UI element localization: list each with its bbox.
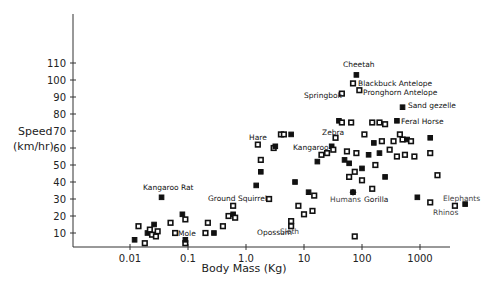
data-point-marker xyxy=(400,105,405,110)
data-point-marker xyxy=(398,132,403,137)
data-point-marker xyxy=(168,221,173,226)
data-point-marker xyxy=(383,122,388,127)
y-tick-label: 10 xyxy=(53,228,66,239)
data-point-marker xyxy=(400,137,405,142)
data-point-marker xyxy=(132,238,137,243)
data-point-marker xyxy=(409,139,414,144)
data-point-marker xyxy=(233,215,238,220)
data-point-marker xyxy=(366,153,371,158)
annotation-label: Gorilla xyxy=(364,195,388,204)
data-point-marker xyxy=(319,153,324,158)
data-point-marker xyxy=(212,231,217,236)
data-point-marker xyxy=(310,209,315,214)
annotation-label: Pronghorn Antelope xyxy=(363,88,438,97)
data-point-marker xyxy=(221,224,226,229)
annotation-label: Kangaroo xyxy=(293,143,329,152)
data-point-marker xyxy=(370,187,375,192)
data-point-marker xyxy=(387,147,392,152)
x-tick-label: 1000 xyxy=(407,253,432,264)
data-point-marker xyxy=(395,119,400,124)
data-point-marker xyxy=(180,212,185,217)
annotation-label: Hare xyxy=(249,133,267,142)
data-point-marker xyxy=(259,158,264,163)
y-tick-label: 40 xyxy=(53,177,66,188)
x-tick-label: 0.1 xyxy=(180,253,196,264)
data-point-marker xyxy=(254,183,259,188)
annotation-label: Feral Horse xyxy=(401,117,444,126)
data-point-marker xyxy=(360,166,365,171)
annotation-label: Sand gezelle xyxy=(408,101,456,110)
annotation-label: Zebra xyxy=(322,128,344,137)
data-point-marker xyxy=(352,234,357,239)
data-point-marker xyxy=(360,178,365,183)
y-axis-title-line1: Speed xyxy=(18,125,52,138)
y-tick-label: 100 xyxy=(47,75,66,86)
data-point-marker xyxy=(412,154,417,159)
data-point-marker xyxy=(395,154,400,159)
data-point-marker xyxy=(428,136,433,141)
data-point-marker xyxy=(231,204,236,209)
data-point-marker xyxy=(312,193,317,198)
data-point-marker xyxy=(373,163,378,168)
data-point-marker xyxy=(203,231,208,236)
data-point-marker xyxy=(273,144,278,149)
data-point-marker xyxy=(347,161,352,166)
data-point-marker xyxy=(154,234,159,239)
annotation-label: Sloth xyxy=(280,227,299,236)
data-point-marker xyxy=(383,175,388,180)
data-point-marker xyxy=(159,195,164,200)
annotation-label: Mole xyxy=(178,229,196,238)
data-point-marker xyxy=(148,227,153,232)
data-point-marker xyxy=(306,190,311,195)
data-point-marker xyxy=(377,120,382,125)
data-point-marker xyxy=(315,159,320,164)
annotation-label: Ground Squirrel xyxy=(208,194,267,203)
data-point-marker xyxy=(302,212,307,217)
data-point-marker xyxy=(155,229,160,234)
y-tick-label: 70 xyxy=(53,126,66,137)
data-point-marker xyxy=(289,132,294,137)
data-point-marker xyxy=(331,147,336,152)
x-tick-label: 10 xyxy=(298,253,311,264)
annotation-label: Blackbuck Antelope xyxy=(358,79,433,88)
data-point-marker xyxy=(296,204,301,209)
data-point-marker xyxy=(435,173,440,178)
data-point-marker xyxy=(349,120,354,125)
data-point-marker xyxy=(354,73,359,78)
annotation-label: Kangaroo Rat xyxy=(143,183,194,192)
data-point-marker xyxy=(183,217,188,222)
y-tick-label: 90 xyxy=(53,92,66,103)
y-axis-title-line2: (km/hr) xyxy=(13,140,54,153)
annotation-label: Elephants xyxy=(443,194,480,203)
data-point-marker xyxy=(183,238,188,243)
annotation-label: Rhinos xyxy=(433,208,458,217)
data-point-marker xyxy=(282,132,287,137)
data-point-marker xyxy=(293,180,298,185)
y-tick-label: 80 xyxy=(53,109,66,120)
y-tick-label: 30 xyxy=(53,194,66,205)
data-point-marker xyxy=(391,139,396,144)
annotation-label: Cheetah xyxy=(343,60,375,69)
data-point-marker xyxy=(370,120,375,125)
data-point-marker xyxy=(136,224,141,229)
data-point-marker xyxy=(256,142,261,147)
data-point-marker xyxy=(152,222,157,227)
data-points xyxy=(132,73,467,246)
data-point-marker xyxy=(380,139,385,144)
data-point-marker xyxy=(377,151,382,156)
y-tick-label: 60 xyxy=(53,143,66,154)
data-point-marker xyxy=(289,219,294,224)
annotation-label: Humans xyxy=(330,195,361,204)
data-point-marker xyxy=(143,241,148,246)
x-axis-title: Body Mass (Kg) xyxy=(201,262,286,275)
data-point-marker xyxy=(415,195,420,200)
scatter-chart: 102030405060708090100110 0.010.11.010100… xyxy=(0,0,488,292)
data-point-marker xyxy=(351,81,356,86)
data-point-marker xyxy=(259,170,264,175)
data-point-marker xyxy=(206,221,211,226)
data-point-marker xyxy=(428,200,433,205)
x-tick-label: 100 xyxy=(352,253,371,264)
data-point-marker xyxy=(173,231,178,236)
data-point-marker xyxy=(226,214,231,219)
data-point-marker xyxy=(342,158,347,163)
